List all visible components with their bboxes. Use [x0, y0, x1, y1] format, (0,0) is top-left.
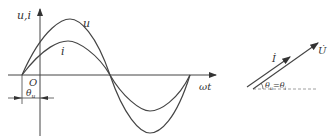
voltage-phasor-label: U̇ [318, 45, 327, 56]
phase-label: θu [26, 88, 35, 99]
x-axis-label: ωt [199, 81, 212, 92]
origin-label: O [29, 77, 37, 88]
curve-u-label: u [83, 17, 90, 30]
waveform-plot: u,i u i O ωt θu [8, 9, 216, 136]
current-curve [22, 41, 190, 111]
angle-label: θu=θi [265, 81, 287, 91]
voltage-phasor [253, 43, 318, 89]
voltage-curve [22, 19, 190, 133]
phasor-diagram: U̇ İ θu=θi [247, 43, 327, 91]
curve-i-label: i [61, 45, 65, 58]
current-phasor-label: İ [271, 53, 277, 64]
y-axis-label: u,i [17, 9, 31, 22]
figure: u,i u i O ωt θu U̇ İ θu=θi [0, 0, 330, 139]
